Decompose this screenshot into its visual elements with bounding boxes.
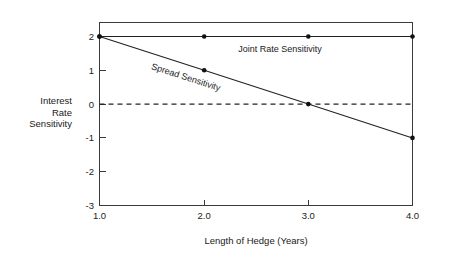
x-tick-labels: 1.0 2.0 3.0 4.0 xyxy=(93,210,419,221)
x-axis-ticks xyxy=(204,200,308,206)
y-axis-ticks xyxy=(100,37,106,206)
chart-figure: 2 1 0 -1 -2 -3 1.0 2.0 3.0 4.0 xyxy=(0,0,467,265)
joint-rate-sensitivity-label: Joint Rate Sensitivity xyxy=(238,44,322,54)
series-joint-rate-sensitivity xyxy=(97,34,415,39)
y-tick-label-2: 2 xyxy=(89,31,94,42)
x-tick-label-3: 3.0 xyxy=(302,210,315,221)
x-tick-label-2: 2.0 xyxy=(198,210,211,221)
y-tick-label-1: 1 xyxy=(89,65,94,76)
interest-rate-sensitivity-line-chart: 2 1 0 -1 -2 -3 1.0 2.0 3.0 4.0 xyxy=(0,0,467,265)
spread-point-2 xyxy=(202,68,207,73)
x-tick-label-1: 1.0 xyxy=(93,210,106,221)
joint-point-3 xyxy=(306,34,311,39)
joint-point-4 xyxy=(410,34,415,39)
joint-point-2 xyxy=(202,34,207,39)
y-tick-label-neg1: -1 xyxy=(86,132,94,143)
x-axis-title: Length of Hedge (Years) xyxy=(204,235,307,246)
spread-sensitivity-label: Spread Sensitivity xyxy=(150,61,222,93)
y-axis-title-line-2: Rate xyxy=(52,107,72,118)
y-axis-title: Interest Rate Sensitivity xyxy=(29,95,72,129)
y-tick-labels: 2 1 0 -1 -2 -3 xyxy=(86,31,94,211)
y-tick-label-neg2: -2 xyxy=(86,166,94,177)
y-tick-label-0: 0 xyxy=(89,99,94,110)
y-axis-title-line-1: Interest xyxy=(40,95,72,106)
x-tick-label-4: 4.0 xyxy=(406,210,419,221)
spread-point-1 xyxy=(97,34,102,39)
spread-point-3 xyxy=(306,102,311,107)
y-axis-title-line-3: Sensitivity xyxy=(29,118,72,129)
spread-point-4 xyxy=(410,136,415,141)
